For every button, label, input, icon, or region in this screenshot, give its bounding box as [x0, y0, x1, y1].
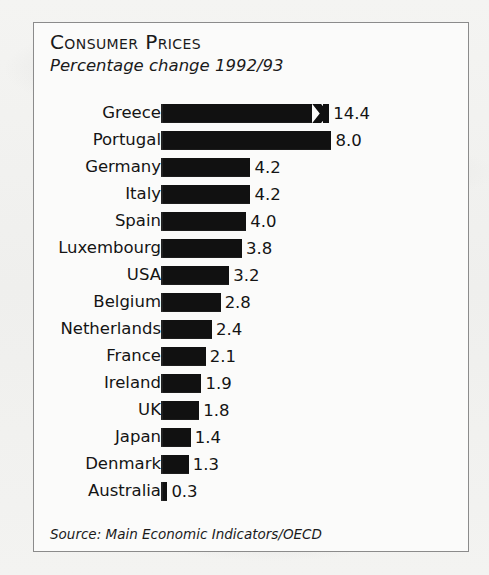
- bar-and-value: 3.2: [161, 266, 259, 285]
- bar-and-value: 4.2: [161, 158, 281, 177]
- bar-rect: [161, 158, 250, 177]
- bar-rect: [161, 185, 250, 204]
- bar-and-value: 1.4: [161, 428, 221, 447]
- bar-and-value: 2.1: [161, 347, 236, 366]
- bar-row: Denmark1.3: [34, 452, 470, 479]
- bar-category-label: Australia: [0, 481, 161, 500]
- bar-and-value: 1.8: [161, 401, 230, 420]
- bar-category-label: Italy: [0, 184, 161, 203]
- bar-category-label: Denmark: [0, 454, 161, 473]
- bar-rect: [161, 401, 199, 420]
- bar-chart-plot-area: Greece14.4Portugal8.0Germany4.2Italy4.2S…: [34, 101, 470, 506]
- bar-rect: [161, 320, 212, 339]
- bar-rect: [161, 455, 189, 474]
- bar-row: USA3.2: [34, 263, 470, 290]
- bar-value-label: 3.8: [246, 239, 272, 258]
- bar-row: Japan1.4: [34, 425, 470, 452]
- bar-category-label: Spain: [0, 211, 161, 230]
- bar-and-value: 14.4: [161, 104, 370, 123]
- bar-value-label: 14.4: [333, 104, 370, 123]
- bar-value-label: 3.2: [233, 266, 259, 285]
- bar-row: Netherlands2.4: [34, 317, 470, 344]
- bar-and-value: 0.3: [161, 482, 198, 501]
- bar-row: France2.1: [34, 344, 470, 371]
- bar-and-value: 3.8: [161, 239, 272, 258]
- bar-value-label: 0.3: [171, 482, 197, 501]
- bar-row: UK1.8: [34, 398, 470, 425]
- bar-value-label: 1.8: [203, 401, 229, 420]
- axis-break-icon: [312, 104, 329, 123]
- bar-and-value: 4.2: [161, 185, 281, 204]
- bar-category-label: Belgium: [0, 292, 161, 311]
- bar-and-value: 1.9: [161, 374, 232, 393]
- bar-value-label: 2.4: [216, 320, 242, 339]
- bar-value-label: 4.2: [254, 185, 280, 204]
- bar-value-label: 1.4: [195, 428, 221, 447]
- bar-rect: [161, 374, 201, 393]
- bar-rect: [161, 482, 167, 501]
- chart-subtitle: Percentage change 1992/93: [50, 56, 284, 75]
- bar-row: Belgium2.8: [34, 290, 470, 317]
- bar-category-label: Ireland: [0, 373, 161, 392]
- bar-category-label: Portugal: [0, 130, 161, 149]
- bar-category-label: Greece: [0, 103, 161, 122]
- bar-category-label: Luxembourg: [0, 238, 161, 257]
- bar-value-label: 8.0: [335, 131, 361, 150]
- bar-rect: [161, 428, 191, 447]
- bar-category-label: Netherlands: [0, 319, 161, 338]
- bar-rect: [161, 266, 229, 285]
- bar-and-value: 4.0: [161, 212, 276, 231]
- bar-value-label: 4.0: [250, 212, 276, 231]
- bar-value-label: 2.8: [225, 293, 251, 312]
- chart-panel: Consumer Prices Percentage change 1992/9…: [33, 22, 469, 552]
- bar-value-label: 4.2: [254, 158, 280, 177]
- bar-category-label: Japan: [0, 427, 161, 446]
- bar-row: Ireland1.9: [34, 371, 470, 398]
- bar-and-value: 2.4: [161, 320, 242, 339]
- bar-value-label: 1.3: [193, 455, 219, 474]
- bar-row: Greece14.4: [34, 101, 470, 128]
- bar-and-value: 8.0: [161, 131, 362, 150]
- bar-category-label: UK: [0, 400, 161, 419]
- bar-rect: [161, 293, 221, 312]
- bar-and-value: 2.8: [161, 293, 251, 312]
- bar-category-label: USA: [0, 265, 161, 284]
- bar-rect: [161, 212, 246, 231]
- chart-title: Consumer Prices: [50, 30, 201, 54]
- bar-value-label: 2.1: [210, 347, 236, 366]
- bar-rect: [161, 104, 312, 123]
- bar-value-label: 1.9: [205, 374, 231, 393]
- bar-rect: [161, 347, 206, 366]
- bar-row: Germany4.2: [34, 155, 470, 182]
- bar-and-value: 1.3: [161, 455, 219, 474]
- bar-rect: [161, 131, 331, 150]
- bar-row: Portugal8.0: [34, 128, 470, 155]
- bar-rect: [161, 239, 242, 258]
- bar-row: Australia0.3: [34, 479, 470, 506]
- bar-category-label: France: [0, 346, 161, 365]
- chart-source-note: Source: Main Economic Indicators/OECD: [50, 526, 322, 542]
- bar-category-label: Germany: [0, 157, 161, 176]
- bar-row: Italy4.2: [34, 182, 470, 209]
- bar-row: Spain4.0: [34, 209, 470, 236]
- bar-row: Luxembourg3.8: [34, 236, 470, 263]
